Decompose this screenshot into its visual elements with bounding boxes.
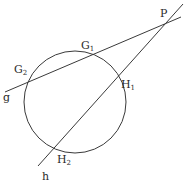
label-point-h2: H2 xyxy=(57,153,71,167)
label-line-h: h xyxy=(42,170,49,183)
label-point-p: P xyxy=(160,7,168,20)
label-point-g1: G1 xyxy=(81,39,94,53)
label-point-h1: H1 xyxy=(121,78,135,92)
label-line-g: g xyxy=(3,91,10,104)
secant-diagram: P G1 G2 g H1 H2 h xyxy=(0,0,187,186)
line-g xyxy=(5,17,181,92)
circle xyxy=(24,51,126,153)
line-h xyxy=(38,4,183,166)
label-point-g2: G2 xyxy=(14,63,27,77)
